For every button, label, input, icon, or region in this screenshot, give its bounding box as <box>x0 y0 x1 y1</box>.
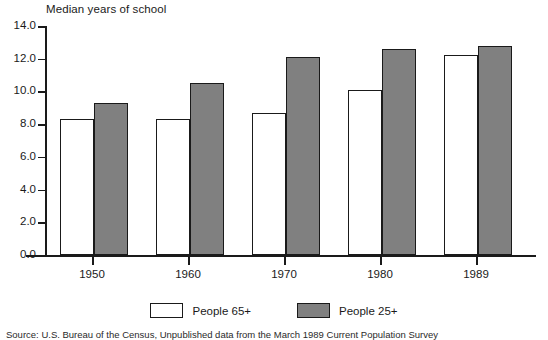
source-note: Source: U.S. Bureau of the Census, Unpub… <box>6 329 546 340</box>
y-tick-14 <box>38 26 46 28</box>
legend-swatch-gray-icon <box>297 303 330 318</box>
legend-item-people-25-plus: People 25+ <box>297 303 398 318</box>
x-tick-label-1950: 1950 <box>62 268 122 280</box>
bar-1970-people-65-plus <box>252 113 286 255</box>
bar-1960-people-25-plus <box>190 83 224 255</box>
y-tick-6 <box>38 157 46 159</box>
legend-item-people-65-plus: People 65+ <box>150 303 251 318</box>
bar-1980-people-25-plus <box>382 49 416 255</box>
bar-1960-people-65-plus <box>156 119 190 255</box>
y-tick-label-2: 2.0 <box>2 217 36 229</box>
x-tick-label-1960: 1960 <box>158 268 218 280</box>
bar-1980-people-65-plus <box>348 90 382 255</box>
legend-label-people-65-plus: People 65+ <box>192 305 251 317</box>
plot-area <box>46 26 528 255</box>
y-tick-label-4: 4.0 <box>2 184 36 196</box>
bar-1989-people-25-plus <box>478 46 512 255</box>
y-tick-label-0: 0.0 <box>2 249 36 261</box>
y-tick-10 <box>38 91 46 93</box>
bar-1989-people-65-plus <box>444 55 478 255</box>
x-tick-1970 <box>284 257 286 265</box>
x-tick-label-1989: 1989 <box>446 268 506 280</box>
y-tick-label-10: 10.0 <box>2 86 36 98</box>
y-tick-label-6: 6.0 <box>2 151 36 163</box>
bar-1950-people-65-plus <box>60 119 94 255</box>
y-tick-label-12: 12.0 <box>2 53 36 65</box>
bar-1950-people-25-plus <box>94 103 128 255</box>
x-tick-1980 <box>380 257 382 265</box>
y-tick-12 <box>38 59 46 61</box>
legend-label-people-25-plus: People 25+ <box>339 305 398 317</box>
x-axis-line <box>26 255 536 257</box>
legend-swatch-white-icon <box>150 303 183 318</box>
x-tick-1960 <box>188 257 190 265</box>
bar-1970-people-25-plus <box>286 57 320 255</box>
chart-legend: People 65+ People 25+ <box>0 303 548 318</box>
x-tick-label-1970: 1970 <box>254 268 314 280</box>
y-tick-2 <box>38 222 46 224</box>
chart-title: Median years of school <box>46 3 166 15</box>
y-tick-label-14: 14.0 <box>2 20 36 32</box>
y-tick-0 <box>38 255 46 257</box>
x-tick-1989 <box>476 257 478 265</box>
y-tick-label-8: 8.0 <box>2 118 36 130</box>
x-tick-label-1980: 1980 <box>350 268 410 280</box>
y-tick-4 <box>38 190 46 192</box>
x-tick-1950 <box>92 257 94 265</box>
y-tick-8 <box>38 124 46 126</box>
